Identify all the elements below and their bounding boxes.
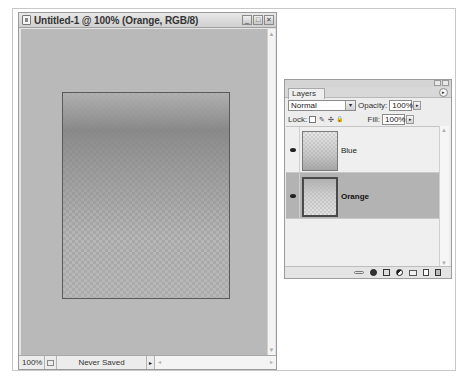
scroll-left-icon[interactable]: ◂ (158, 358, 161, 365)
lock-fill-row: Lock: ✎ ✣ 🔒 Fill: 100% ▸ (288, 113, 448, 125)
layer-thumbnail (302, 177, 338, 217)
document-status-text: Never Saved (57, 356, 147, 369)
opacity-slider-arrow-icon[interactable]: ▸ (413, 101, 421, 110)
fill-input[interactable]: 100% (382, 114, 405, 125)
lock-move-icon[interactable]: ✣ (327, 116, 334, 123)
layer-list: Blue Orange (286, 126, 440, 267)
layer-thumbnail (302, 131, 338, 171)
layers-panel: Layers ▸ Normal ▾ Opacity: 100% ▸ Lock: … (284, 79, 452, 279)
panel-controls (434, 80, 449, 86)
status-bar: 100% Never Saved ▸ ◂ ▸ (19, 355, 276, 369)
visibility-toggle[interactable] (286, 127, 300, 172)
lock-paint-icon[interactable]: ✎ (318, 116, 325, 123)
new-layer-icon[interactable] (423, 269, 429, 276)
opacity-label: Opacity: (358, 101, 387, 110)
scroll-down-icon[interactable]: ▼ (268, 346, 275, 354)
minimize-button[interactable]: _ (242, 15, 252, 25)
zoom-level-field[interactable]: 100% (19, 356, 45, 369)
lock-transparency-icon[interactable] (309, 116, 316, 123)
layer-name: Orange (341, 192, 369, 201)
layer-row-orange[interactable]: Orange (286, 173, 440, 219)
document-canvas[interactable] (62, 92, 230, 299)
horizontal-scrollbar[interactable]: ◂ ▸ (155, 356, 276, 369)
chevron-down-icon[interactable]: ▾ (345, 101, 355, 110)
eye-icon (290, 148, 296, 152)
link-layers-icon[interactable] (354, 271, 364, 274)
new-group-icon[interactable] (409, 270, 417, 276)
panel-tab-row: Layers ▸ (285, 87, 451, 98)
close-button[interactable]: ✕ (264, 15, 274, 25)
blend-mode-select[interactable]: Normal ▾ (288, 100, 356, 111)
scroll-up-icon[interactable]: ▲ (441, 127, 447, 133)
add-mask-icon[interactable] (383, 269, 390, 276)
blend-opacity-row: Normal ▾ Opacity: 100% ▸ (288, 99, 448, 111)
document-window: Untitled-1 @ 100% (Orange, RGB/8) _ □ ✕ … (18, 12, 277, 370)
panel-footer (285, 266, 451, 278)
layer-row-blue[interactable]: Blue (286, 127, 440, 173)
layer-list-scrollbar[interactable]: ▲ ▼ (439, 126, 449, 267)
panel-titlebar[interactable] (285, 80, 451, 87)
document-titlebar[interactable]: Untitled-1 @ 100% (Orange, RGB/8) _ □ ✕ (19, 13, 276, 28)
document-title: Untitled-1 @ 100% (Orange, RGB/8) (34, 15, 198, 26)
vertical-scrollbar[interactable]: ▲ ▼ (267, 29, 275, 355)
lock-all-icon[interactable]: 🔒 (336, 116, 343, 123)
maximize-button[interactable]: □ (253, 15, 263, 25)
panel-minimize-button[interactable] (434, 80, 441, 86)
status-menu-arrow-icon[interactable]: ▸ (147, 356, 155, 369)
adjustment-layer-icon[interactable] (396, 269, 403, 276)
photoshop-document-icon (22, 15, 31, 25)
delete-layer-icon[interactable] (435, 269, 441, 276)
eye-icon (290, 194, 296, 198)
document-info-icon[interactable] (45, 356, 57, 369)
panel-menu-icon[interactable]: ▸ (439, 88, 448, 97)
canvas-area[interactable] (21, 29, 268, 355)
blend-mode-value: Normal (291, 101, 317, 110)
fill-label: Fill: (368, 115, 380, 124)
layer-name: Blue (341, 146, 357, 155)
layer-style-icon[interactable] (370, 269, 377, 276)
lock-label: Lock: (288, 115, 307, 124)
window-controls: _ □ ✕ (242, 15, 274, 25)
panel-close-button[interactable] (442, 80, 449, 86)
scroll-up-icon[interactable]: ▲ (268, 30, 275, 38)
fill-slider-arrow-icon[interactable]: ▸ (406, 115, 414, 124)
scroll-right-icon[interactable]: ▸ (270, 358, 273, 365)
tab-layers[interactable]: Layers (288, 88, 325, 99)
visibility-toggle[interactable] (286, 173, 300, 218)
opacity-input[interactable]: 100% (389, 100, 412, 111)
